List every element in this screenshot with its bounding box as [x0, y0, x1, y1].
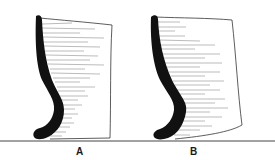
vessel-a-label: A — [76, 147, 83, 157]
pottery-profile-figure — [0, 0, 275, 160]
vessel-b-drawing — [151, 15, 242, 139]
vessel-b-profile-section — [151, 15, 186, 139]
vessel-a-profile-section — [33, 15, 64, 139]
vessel-a-drawing — [33, 15, 112, 139]
vessel-b-label: B — [190, 147, 197, 157]
